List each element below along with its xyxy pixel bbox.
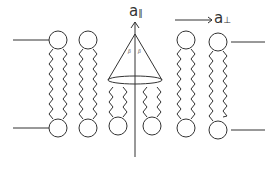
lipid-tails-full: [49, 49, 227, 121]
perpendicular-axis-label: a⊥: [214, 10, 231, 26]
lipid-head-bottom: [79, 119, 97, 137]
lipid-head-top: [209, 33, 227, 51]
lipid-bilayer-diagram: [0, 0, 277, 169]
lipid-head-top: [79, 31, 97, 49]
perpendicular-axis-label-subscript: ⊥: [223, 15, 231, 25]
perpendicular-axis-label-base: a: [214, 9, 223, 27]
lipid-head-bottom: [49, 119, 67, 137]
cone-angle-label-left: β: [128, 48, 131, 54]
cone-angle-label-right: β: [138, 48, 141, 54]
lipid-head-bottom: [177, 119, 195, 137]
lipid-head-bottom: [209, 121, 227, 139]
lipid-head-top: [49, 31, 67, 49]
parallel-axis-label-subscript: ∥: [138, 8, 143, 18]
lipid-head-top: [177, 31, 195, 49]
lipid-head-bottom: [143, 117, 161, 135]
lipid-head-bottom: [109, 117, 127, 135]
parallel-axis-label: a∥: [129, 3, 143, 19]
parallel-axis-label-base: a: [129, 2, 138, 20]
